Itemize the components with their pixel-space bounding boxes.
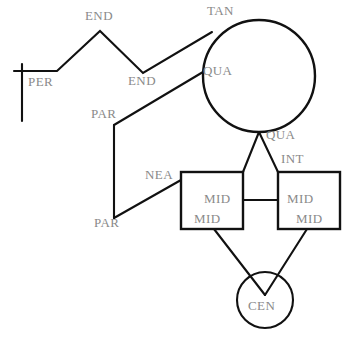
constraint-label-qua-upper: QUA (203, 64, 232, 77)
qua-to-left-box-line[interactable] (243, 132, 259, 172)
diagram-graphics (0, 0, 348, 337)
constraint-label-per: PER (28, 75, 53, 88)
constraint-label-nea: NEA (145, 168, 173, 181)
diagram-canvas: PER END END TAN QUA PAR QUA INT NEA PAR … (0, 0, 348, 337)
constraint-label-int: INT (281, 152, 304, 165)
constraint-label-cen: CEN (248, 299, 275, 312)
per-polyline[interactable] (14, 31, 212, 73)
constraint-label-mid-right-lower: MID (296, 212, 322, 225)
constraint-label-qua-lower: QUA (266, 128, 295, 141)
right-box-to-cen-line[interactable] (265, 229, 307, 295)
nea-connector-line[interactable] (114, 180, 181, 218)
constraint-label-mid-left-lower: MID (194, 212, 220, 225)
constraint-label-tan: TAN (207, 4, 234, 17)
constraint-label-end-top: END (85, 9, 113, 22)
constraint-label-par-upper: PAR (91, 107, 116, 120)
constraint-label-par-lower: PAR (94, 216, 119, 229)
constraint-label-mid-right-upper: MID (287, 192, 313, 205)
constraint-label-mid-left-upper: MID (204, 192, 230, 205)
constraint-label-end-valley: END (128, 74, 156, 87)
left-box-to-cen-line[interactable] (214, 229, 265, 295)
